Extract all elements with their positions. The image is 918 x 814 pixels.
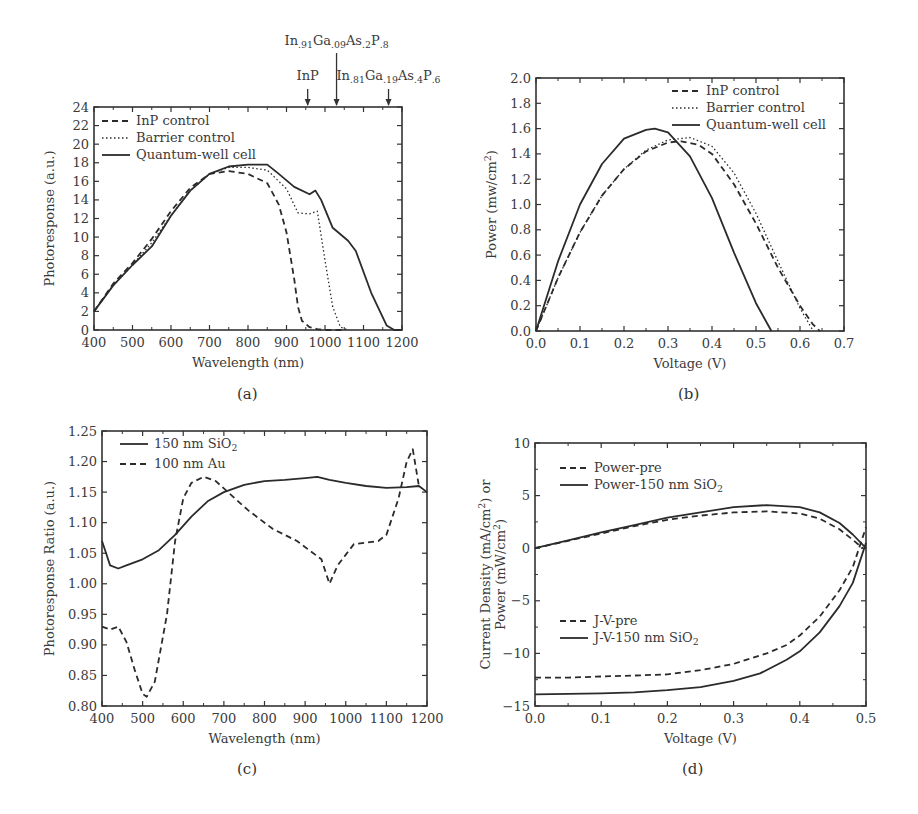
y-tick-label: −5 <box>511 593 530 608</box>
x-tick-label: 700 <box>211 711 236 726</box>
chart-a: 4005006007008009001000110012000246810121… <box>42 33 441 370</box>
y-tick-label: 0.6 <box>510 248 531 263</box>
x-axis-label: Wavelength (nm) <box>192 355 304 370</box>
x-axis-label: Voltage (V) <box>653 356 727 371</box>
series-line <box>535 511 863 548</box>
x-tick-label: 1000 <box>308 335 341 350</box>
y-axis-label: Photoresponse (a.u.) <box>42 150 57 286</box>
panel-label-b: (b) <box>678 385 699 403</box>
y-tick-label: −15 <box>503 699 530 714</box>
legend-label: Power-150 nm SiO2 <box>594 477 723 494</box>
x-tick-label: 0.4 <box>789 711 810 726</box>
y-tick-label: 22 <box>72 118 89 133</box>
plot-frame <box>536 78 844 331</box>
x-tick-label: 0.3 <box>723 711 744 726</box>
y-axis-label: Current Density (mA/cm2) or <box>476 479 493 670</box>
x-tick-label: 0.2 <box>657 711 678 726</box>
legend-label: Quantum-well cell <box>706 117 826 132</box>
series-line <box>535 505 866 548</box>
y-tick-label: 1.00 <box>68 576 97 591</box>
x-tick-label: 600 <box>159 335 184 350</box>
legend-label: Barrier control <box>706 100 805 115</box>
x-tick-label: 900 <box>293 711 318 726</box>
y-tick-label: 0.90 <box>68 637 97 652</box>
panel-label-a: (a) <box>237 385 258 403</box>
x-tick-label: 800 <box>252 711 277 726</box>
legend-label: 150 nm SiO2 <box>154 436 238 453</box>
annotation-label: In.91Ga.09As.2P.8 <box>285 33 389 50</box>
y-tick-label: 0.0 <box>510 324 531 339</box>
series-line <box>536 129 771 331</box>
annotation-label: InP <box>297 68 320 83</box>
x-tick-label: 0.4 <box>702 336 723 351</box>
chart-c: 4005006007008009001000110012000.800.850.… <box>42 424 444 747</box>
y-tick-label: 0.8 <box>510 222 531 237</box>
x-tick-label: 1100 <box>347 335 380 350</box>
legend-label: J-V-pre <box>592 613 638 628</box>
x-tick-label: 800 <box>236 335 261 350</box>
legend-label: Quantum-well cell <box>136 147 256 162</box>
panel-label-c: (c) <box>237 760 257 778</box>
x-tick-label: 600 <box>171 711 196 726</box>
x-tick-label: 0.6 <box>790 336 811 351</box>
series-line <box>94 165 402 330</box>
x-tick-label: 0.2 <box>614 336 635 351</box>
y-tick-label: 0.85 <box>68 668 97 683</box>
plot-frame <box>102 431 427 706</box>
x-tick-label: 0.1 <box>591 711 612 726</box>
y-tick-label: 1.6 <box>510 121 531 136</box>
x-tick-label: 900 <box>274 335 299 350</box>
y-tick-label: 1.05 <box>68 546 97 561</box>
y-tick-label: 0.80 <box>68 699 97 714</box>
x-tick-label: 0.5 <box>746 336 767 351</box>
x-tick-label: 0.5 <box>856 711 877 726</box>
y-tick-label: 2.0 <box>510 71 531 86</box>
y-tick-label: 10 <box>513 436 530 451</box>
y-tick-label: 0 <box>81 323 89 338</box>
y-tick-label: 0 <box>522 541 530 556</box>
y-tick-label: 1.4 <box>510 146 531 161</box>
y-tick-label: 16 <box>72 174 89 189</box>
y-tick-label: 6 <box>81 267 89 282</box>
x-tick-label: 1000 <box>329 711 362 726</box>
y-tick-label: 20 <box>72 137 89 152</box>
x-axis-label: Wavelength (nm) <box>208 731 320 746</box>
legend-label: InP control <box>706 83 779 98</box>
y-tick-label: 18 <box>72 155 89 170</box>
x-tick-label: 0.7 <box>834 336 855 351</box>
y-tick-label: 1.15 <box>68 485 97 500</box>
legend-label: J-V-150 nm SiO2 <box>592 630 699 647</box>
x-tick-label: 1200 <box>410 711 443 726</box>
panel-label-d: (d) <box>682 760 703 778</box>
y-tick-label: 14 <box>72 192 89 207</box>
legend-label: 100 nm Au <box>154 456 226 471</box>
x-tick-label: 500 <box>120 335 145 350</box>
y-tick-label: 1.0 <box>510 197 531 212</box>
x-tick-label: 1100 <box>370 711 403 726</box>
y-tick-label: 1.10 <box>68 515 97 530</box>
y-tick-label: 1.2 <box>510 172 531 187</box>
x-tick-label: 0.1 <box>570 336 591 351</box>
series-line <box>94 167 348 330</box>
y-tick-label: 1.8 <box>510 96 531 111</box>
y-tick-label: 1.25 <box>68 424 97 439</box>
chart-d: 0.00.10.20.30.40.5−15−10−50510Voltage (V… <box>476 436 876 747</box>
y-tick-label: 1.20 <box>68 454 97 469</box>
x-axis-label: Voltage (V) <box>663 731 737 746</box>
y-tick-label: 8 <box>81 248 89 263</box>
legend-label: InP control <box>136 113 209 128</box>
y-tick-label: 24 <box>72 100 89 115</box>
y-tick-label: −10 <box>503 646 530 661</box>
y-tick-label: 0.2 <box>510 298 531 313</box>
y-tick-label: 0.95 <box>68 607 97 622</box>
series-line <box>94 171 344 330</box>
annotation-label: In.81Ga.19As.4P.6 <box>336 68 440 85</box>
y-tick-label: 4 <box>81 285 89 300</box>
legend-label: Power-pre <box>594 460 662 475</box>
y-axis-label: Power (mW/cm2) <box>491 519 508 630</box>
y-axis-label: Power (mw/cm2) <box>482 150 499 259</box>
x-tick-label: 0.3 <box>658 336 679 351</box>
y-tick-label: 0.4 <box>510 273 531 288</box>
x-tick-label: 1200 <box>385 335 418 350</box>
series-line <box>535 527 866 677</box>
